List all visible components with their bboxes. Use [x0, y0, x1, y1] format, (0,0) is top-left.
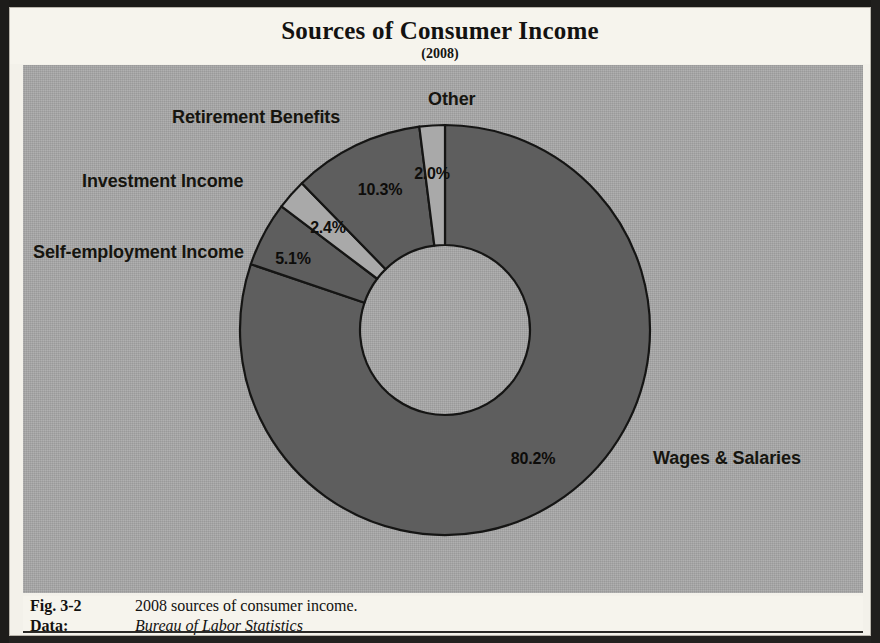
frame-edge-bottom — [0, 636, 880, 643]
plot-area: Wages & Salaries Self-employment Income … — [23, 65, 863, 593]
slice-value-retirement-benefits: 10.3% — [358, 181, 402, 199]
slice-label-wages-and-salaries: Wages & Salaries — [653, 448, 801, 469]
slice-value-investment-income: 2.4% — [310, 219, 346, 237]
slice-value-other: 2.0% — [414, 165, 450, 183]
slice-label-self-employment-income: Self-employment Income — [33, 242, 244, 263]
chart-title: Sources of Consumer Income — [10, 17, 870, 45]
slice-value-self-employment-income: 5.1% — [275, 250, 311, 268]
slice-label-retirement-benefits: Retirement Benefits — [172, 107, 340, 128]
slice-value-wages-and-salaries: 80.2% — [511, 450, 555, 468]
title-band: Sources of Consumer Income (2008) — [10, 8, 870, 64]
slice-label-other: Other — [428, 89, 476, 110]
caption-bottom-rule — [23, 631, 863, 633]
donut-chart — [23, 65, 863, 593]
frame-edge-top — [0, 0, 880, 7]
figure-caption: Fig. 3-2 2008 sources of consumer income… — [23, 596, 863, 634]
slice-label-investment-income: Investment Income — [82, 171, 243, 192]
caption-figure-text: 2008 sources of consumer income. — [135, 597, 358, 615]
caption-figure-number: Fig. 3-2 — [30, 597, 82, 615]
frame-edge-left — [0, 0, 9, 643]
frame-edge-right — [871, 0, 880, 643]
figure-container: Sources of Consumer Income (2008) Wages … — [0, 0, 880, 643]
chart-subtitle: (2008) — [10, 46, 870, 62]
